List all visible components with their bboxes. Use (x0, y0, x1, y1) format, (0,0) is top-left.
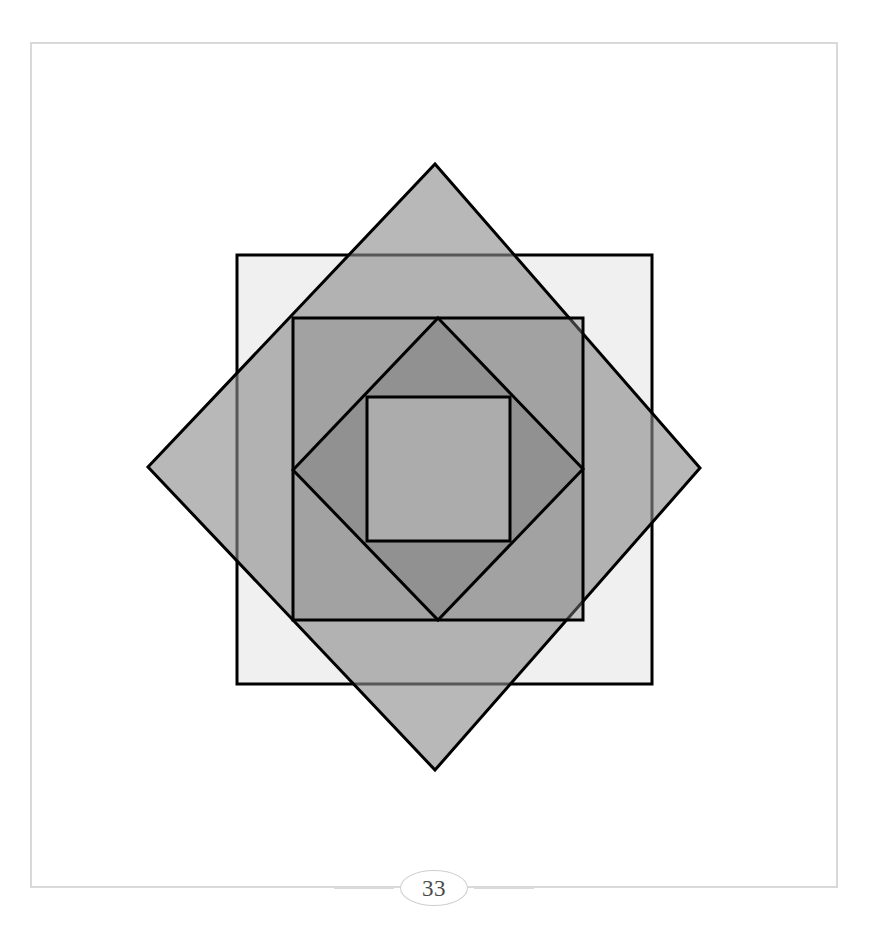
page-number: 33 (422, 877, 446, 900)
footer-rule-left (334, 887, 394, 889)
geometric-figure (0, 0, 877, 931)
page-footer: 33 (30, 862, 838, 914)
nested-squares-svg (0, 0, 877, 931)
shape-square-innermost (367, 397, 510, 541)
footer-rule-right (474, 887, 534, 889)
document-page: 33 (0, 0, 877, 931)
page-number-oval: 33 (400, 870, 468, 906)
